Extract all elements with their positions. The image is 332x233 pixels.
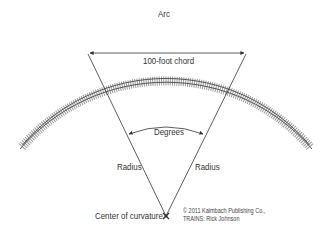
track-arc: [20, 78, 312, 149]
chord-label: 100-foot chord: [143, 57, 194, 66]
center-point-icon: [163, 213, 169, 219]
degrees-label: Degrees: [154, 128, 184, 137]
center-of-curvature-label: Center of curvature: [95, 212, 163, 221]
diagram-graphic: [0, 0, 332, 233]
credit-line-1: © 2011 Kalmbach Publishing Co.,: [183, 207, 265, 215]
copyright-credit: © 2011 Kalmbach Publishing Co., TRAINS: …: [183, 207, 265, 223]
arc-label: Arc: [158, 10, 170, 19]
radius-label-right: Radius: [195, 163, 220, 172]
radius-label-left: Radius: [117, 163, 142, 172]
credit-line-2: TRAINS: Rick Johnson: [183, 215, 265, 223]
